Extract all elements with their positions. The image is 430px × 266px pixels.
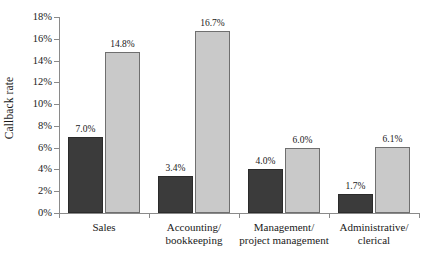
bar-value-label: 7.0% — [62, 125, 109, 135]
x-tick-mark — [59, 213, 60, 218]
y-tick-label: 18% — [18, 12, 52, 23]
y-tick-label: 14% — [18, 55, 52, 66]
bar-light-4 — [375, 147, 410, 213]
y-axis-title: Callback rate — [0, 0, 18, 216]
y-tick-label: 6% — [18, 142, 52, 153]
x-tick-mark — [329, 213, 330, 218]
x-tick-mark — [239, 213, 240, 218]
y-tick-label: 16% — [18, 34, 52, 45]
bar-dark-4 — [338, 194, 373, 213]
bar-value-label: 14.8% — [99, 40, 146, 50]
y-tick-label: 12% — [18, 77, 52, 88]
bar-dark-1 — [68, 137, 103, 213]
y-tick-label: 0% — [18, 208, 52, 219]
bar-value-label: 1.7% — [332, 182, 379, 192]
category-label-line: clerical — [309, 234, 430, 247]
x-tick-mark — [419, 213, 420, 218]
x-tick-mark — [149, 213, 150, 218]
category-label-line: Administrative/ — [309, 221, 430, 234]
y-tick-label: 10% — [18, 99, 52, 110]
bar-value-label: 3.4% — [152, 164, 199, 174]
y-tick-label: 8% — [18, 121, 52, 132]
y-axis-title-text: Callback rate — [3, 77, 15, 139]
plot-area: 7.0%14.8%3.4%16.7%4.0%6.0%1.7%6.1% — [59, 10, 419, 213]
bar-chart: Callback rate 0%2%4%6%8%10%12%14%16%18% … — [0, 0, 430, 266]
bar-dark-3 — [248, 169, 283, 213]
bar-light-1 — [105, 52, 140, 213]
bar-light-3 — [285, 148, 320, 213]
y-tick-label: 4% — [18, 164, 52, 175]
bar-value-label: 6.0% — [279, 136, 326, 146]
bar-value-label: 4.0% — [242, 157, 289, 167]
bar-light-2 — [195, 31, 230, 213]
bar-dark-2 — [158, 176, 193, 213]
bar-value-label: 16.7% — [189, 19, 236, 29]
y-tick-label: 2% — [18, 186, 52, 197]
bar-value-label: 6.1% — [369, 135, 416, 145]
category-label-4: Administrative/clerical — [309, 221, 430, 246]
